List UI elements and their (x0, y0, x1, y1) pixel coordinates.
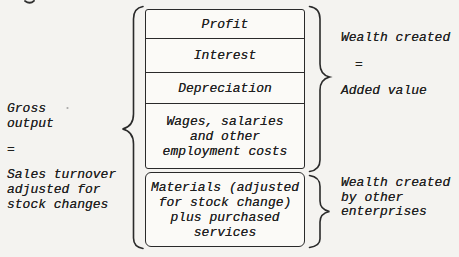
box-materials-label-line1: Materials (adjusted (151, 180, 299, 195)
gross-output-equals-sign: = (7, 142, 15, 157)
box-materials-label-line3: plus purchased (170, 210, 279, 225)
sales-turnover-label-line3: stock changes (7, 197, 108, 212)
wealth-created-label: Wealth created (341, 30, 450, 45)
box-profit: Profit (146, 10, 304, 38)
value-stack: Profit Interest Depreciation Wages, sala… (145, 9, 305, 169)
wealth-other-label-line1: Wealth created (341, 175, 450, 190)
wealth-created-equals-sign: = (355, 57, 363, 72)
box-wages-label-line1: Wages, salaries (166, 114, 283, 129)
box-profit-label: Profit (202, 17, 249, 32)
wealth-other-label-line2: by other (341, 190, 403, 205)
box-wages-label-line3: employment costs (163, 144, 288, 159)
sales-turnover-label-line1: Sales turnover (7, 167, 116, 182)
box-materials-label-line4: services (194, 225, 256, 240)
box-depreciation: Depreciation (146, 72, 304, 103)
box-depreciation-label: Depreciation (178, 81, 272, 96)
gross-output-label-line2: output (7, 116, 54, 131)
wealth-other-label-line3: enterprises (341, 204, 427, 219)
right-brace-top (310, 7, 330, 172)
sales-turnover-label-line2: adjusted for (7, 182, 101, 197)
box-wages: Wages, salaries and other employment cos… (146, 103, 304, 168)
added-value-diagram: Gross output = Sales turnover adjusted f… (0, 0, 459, 257)
box-interest: Interest (146, 38, 304, 72)
left-brace (123, 7, 144, 249)
cropped-character-mark (25, 1, 34, 3)
box-interest-label: Interest (194, 48, 256, 63)
box-materials-label-line2: for stock change) (159, 195, 292, 210)
added-value-label: Added value (341, 83, 427, 98)
box-materials: Materials (adjusted for stock change) pl… (145, 172, 305, 247)
gross-output-label-line1: Gross (7, 101, 46, 116)
right-brace-bottom (310, 176, 330, 248)
scan-speck (66, 107, 68, 109)
box-wages-label-line2: and other (190, 129, 260, 144)
